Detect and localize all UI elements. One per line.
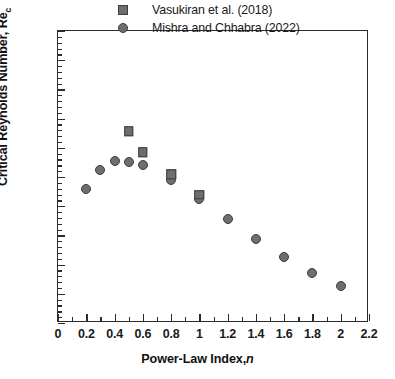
- x-tick-label: 0.2: [78, 327, 95, 341]
- y-tick-major: [58, 89, 65, 90]
- x-tick-major: [369, 314, 370, 321]
- y-tick-minor: [58, 101, 62, 102]
- y-tick-minor: [58, 66, 62, 67]
- y-tick-minor: [58, 288, 62, 289]
- y-tick-minor: [58, 282, 62, 283]
- x-tick-label: 1.4: [248, 327, 265, 341]
- circle-marker-glyph: [118, 23, 128, 33]
- y-tick-minor: [58, 247, 62, 248]
- legend-item: Vasukiran et al. (2018): [114, 3, 300, 17]
- y-tick-minor: [58, 142, 62, 143]
- legend-marker-square-icon: [114, 5, 132, 15]
- data-point-circle: [223, 214, 233, 224]
- y-tick-major: [58, 31, 65, 32]
- x-tick-minor: [355, 317, 356, 321]
- y-tick-minor: [58, 72, 62, 73]
- legend-item: Mishra and Chhabra (2022): [114, 21, 300, 35]
- x-tick-minor: [242, 317, 243, 321]
- data-point-circle: [124, 157, 134, 167]
- y-tick-minor: [58, 37, 62, 38]
- y-tick-minor: [58, 218, 62, 219]
- y-tick-minor: [58, 305, 62, 306]
- x-axis-title-text: Power-Law Index,: [141, 352, 246, 366]
- x-tick-label: 2: [337, 327, 344, 341]
- data-point-circle: [138, 160, 148, 170]
- x-tick-minor: [129, 317, 130, 321]
- chart-legend: Vasukiran et al. (2018)Mishra and Chhabr…: [114, 3, 300, 35]
- y-tick-minor: [58, 154, 62, 155]
- y-tick-major: [58, 148, 65, 149]
- y-tick-minor: [58, 212, 62, 213]
- x-tick-major: [312, 314, 313, 321]
- x-tick-major: [86, 314, 87, 321]
- data-point-square: [166, 169, 176, 179]
- x-tick-major: [58, 314, 59, 321]
- y-tick-minor: [58, 165, 62, 166]
- x-tick-label: 2.2: [361, 327, 378, 341]
- y-tick-major: [58, 294, 65, 295]
- x-tick-label: 0.4: [106, 327, 123, 341]
- y-tick-major: [58, 177, 65, 178]
- y-tick-minor: [58, 183, 62, 184]
- x-tick-major: [115, 314, 116, 321]
- y-tick-minor: [58, 78, 62, 79]
- y-tick-minor: [58, 43, 62, 44]
- data-point-circle: [307, 268, 317, 278]
- y-tick-minor: [58, 124, 62, 125]
- scatter-plot-figure: 05101520253035404550 00.20.40.60.811.21.…: [0, 0, 395, 379]
- x-tick-minor: [214, 317, 215, 321]
- data-point-circle: [95, 165, 105, 175]
- y-tick-minor: [58, 253, 62, 254]
- x-tick-major: [171, 314, 172, 321]
- y-axis-title-subscript: c: [3, 8, 13, 13]
- y-axis-title-text: Critical Reynolds Number, Re: [0, 12, 10, 186]
- y-tick-major: [58, 323, 65, 324]
- x-tick-minor: [185, 317, 186, 321]
- y-tick-minor: [58, 230, 62, 231]
- y-tick-minor: [58, 159, 62, 160]
- x-tick-minor: [157, 317, 158, 321]
- y-tick-major: [58, 206, 65, 207]
- y-tick-minor: [58, 270, 62, 271]
- legend-marker-circle-icon: [114, 23, 132, 33]
- x-axis-title-italic: n: [246, 352, 254, 366]
- y-tick-minor: [58, 224, 62, 225]
- x-tick-major: [228, 314, 229, 321]
- y-tick-minor: [58, 113, 62, 114]
- x-tick-label: 1: [196, 327, 203, 341]
- data-point-circle: [81, 184, 91, 194]
- y-tick-major: [58, 60, 65, 61]
- data-point-circle: [336, 281, 346, 291]
- data-point-circle: [110, 156, 120, 166]
- y-tick-minor: [58, 136, 62, 137]
- x-tick-label: 0.8: [163, 327, 180, 341]
- y-tick-major: [58, 119, 65, 120]
- x-tick-label: 1.8: [304, 327, 321, 341]
- data-point-square: [138, 148, 148, 158]
- data-point-circle: [279, 252, 289, 262]
- square-marker-glyph: [118, 5, 128, 15]
- y-tick-minor: [58, 171, 62, 172]
- data-point-circle: [251, 234, 261, 244]
- y-tick-minor: [58, 130, 62, 131]
- plot-area: 05101520253035404550 00.20.40.60.811.21.…: [57, 30, 368, 322]
- y-tick-minor: [58, 311, 62, 312]
- y-tick-minor: [58, 276, 62, 277]
- x-tick-major: [341, 314, 342, 321]
- y-tick-major: [58, 265, 65, 266]
- x-tick-label: 0.6: [134, 327, 151, 341]
- x-tick-major: [284, 314, 285, 321]
- y-tick-minor: [58, 189, 62, 190]
- x-tick-label: 1.2: [219, 327, 236, 341]
- y-tick-minor: [58, 107, 62, 108]
- y-tick-minor: [58, 241, 62, 242]
- y-tick-minor: [58, 200, 62, 201]
- y-tick-minor: [58, 54, 62, 55]
- x-tick-minor: [298, 317, 299, 321]
- x-axis-title: Power-Law Index,n: [0, 352, 395, 366]
- legend-label: Vasukiran et al. (2018): [152, 3, 272, 17]
- y-tick-major: [58, 235, 65, 236]
- x-tick-label: 0: [55, 327, 62, 341]
- y-tick-minor: [58, 195, 62, 196]
- x-tick-major: [199, 314, 200, 321]
